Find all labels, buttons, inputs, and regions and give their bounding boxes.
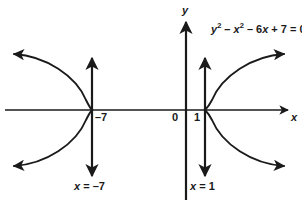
x-axis-label: x (291, 112, 297, 123)
asymptote-left-value: = –7 (80, 180, 105, 192)
asymptote-label-x-1: x = 1 (190, 181, 215, 192)
equation-label: y2 – x2 – 6x + 7 = 0 (211, 24, 302, 35)
y-axis-label: y (182, 5, 188, 16)
asymptote-label-x-neg7: x = –7 (74, 181, 105, 192)
equation-term-coefficient: – 6 (244, 23, 262, 35)
tick-label-zero: 0 (172, 112, 178, 123)
equation-term-x: – x (221, 23, 239, 35)
tick-label-one: 1 (194, 112, 200, 123)
asymptote-right-value: = 1 (196, 180, 215, 192)
tick-label-neg7: –7 (95, 112, 107, 123)
equation-term-constant: + 7 = 0 (268, 23, 302, 35)
hyperbola-graph-figure: x y –7 0 1 x = –7 x = 1 y2 – x2 – 6x + 7… (0, 0, 302, 200)
